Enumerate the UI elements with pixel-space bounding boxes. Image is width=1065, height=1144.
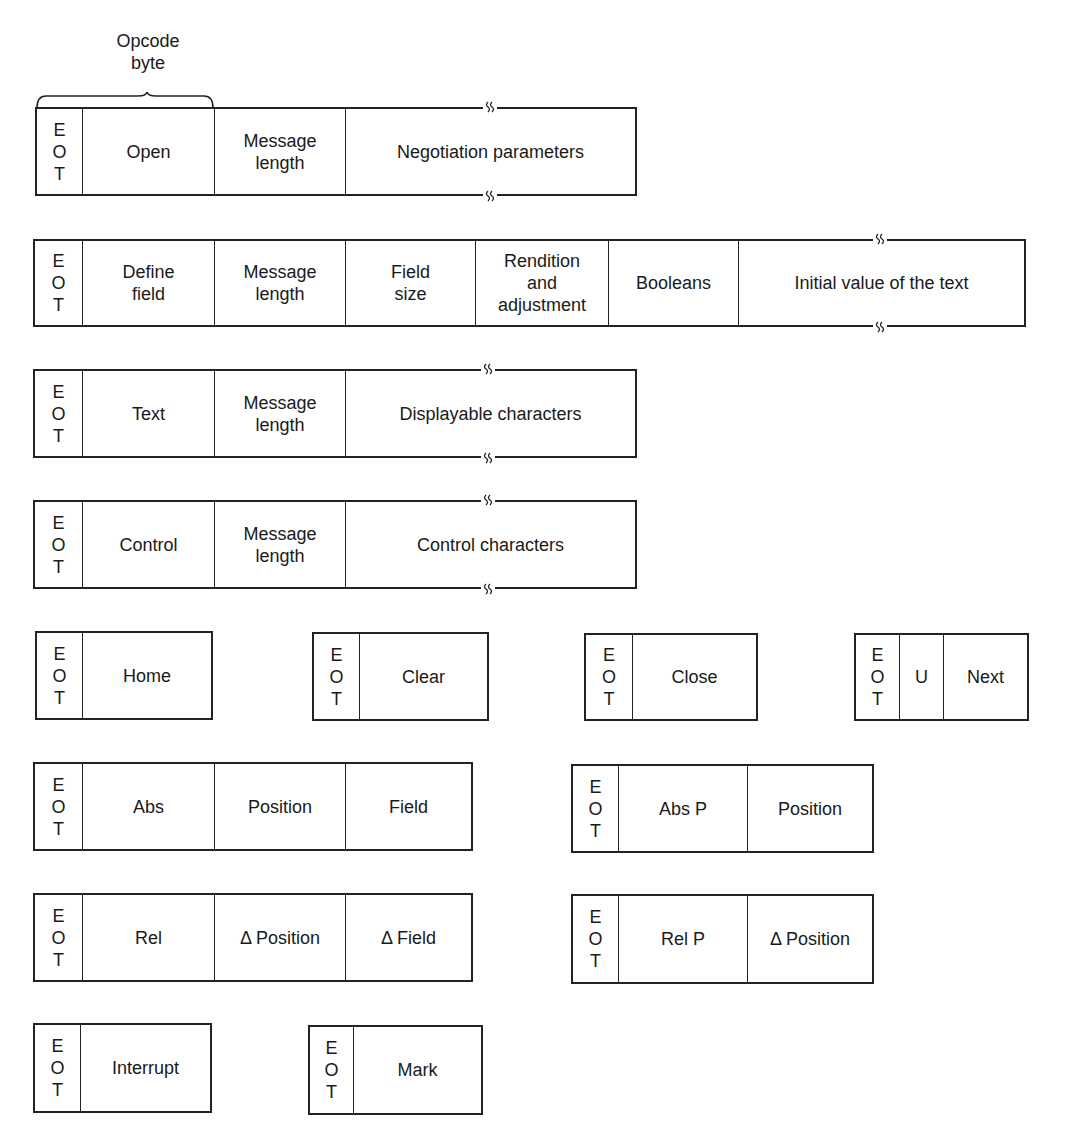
message-next: E O T U Next — [854, 633, 1029, 721]
eot-e: E — [871, 644, 883, 666]
booleans-cell: Booleans — [608, 241, 738, 325]
opcode-cell: Interrupt — [80, 1025, 210, 1111]
break-mark-icon — [873, 233, 887, 245]
eot-e: E — [52, 250, 64, 272]
eot-cell: E O T — [35, 895, 82, 980]
message-length-cell: Message length — [214, 502, 345, 587]
control-characters-cell: Control characters — [345, 502, 635, 587]
eot-e: E — [589, 776, 601, 798]
eot-o: O — [588, 798, 602, 820]
eot-t: T — [53, 425, 64, 447]
break-mark-icon — [483, 190, 497, 202]
eot-t: T — [590, 820, 601, 842]
eot-cell: E O T — [573, 766, 618, 851]
eot-e: E — [330, 644, 342, 666]
eot-cell: E O T — [35, 502, 82, 587]
displayable-characters-cell: Displayable characters — [345, 371, 635, 456]
position-cell: Position — [747, 766, 872, 851]
eot-t: T — [590, 950, 601, 972]
delta-position-cell: Δ Position — [747, 896, 872, 982]
negotiation-parameters-cell: Negotiation parameters — [345, 109, 635, 194]
eot-cell: E O T — [35, 371, 82, 456]
field-cell: Field — [345, 764, 471, 849]
message-length-cell: Message length — [214, 371, 345, 456]
delta-position-cell: Δ Position — [214, 895, 345, 980]
opcode-cell: Define field — [82, 241, 214, 325]
message-mark: E O T Mark — [308, 1025, 483, 1115]
opcode-cell: Rel — [82, 895, 214, 980]
eot-cell: E O T — [856, 635, 899, 719]
eot-t: T — [54, 687, 65, 709]
rendition-adjustment-cell: Rendition and adjustment — [475, 241, 608, 325]
eot-cell: E O T — [314, 634, 359, 719]
eot-o: O — [51, 927, 65, 949]
eot-t: T — [872, 688, 883, 710]
eot-t: T — [54, 163, 65, 185]
break-mark-icon — [481, 452, 495, 464]
opcode-label-line1: Opcode — [100, 30, 196, 52]
eot-e: E — [53, 643, 65, 665]
eot-cell: E O T — [37, 633, 82, 718]
eot-t: T — [53, 556, 64, 578]
opcode-cell: Clear — [359, 634, 487, 719]
eot-e: E — [52, 774, 64, 796]
break-mark-icon — [483, 101, 497, 113]
message-clear: E O T Clear — [312, 632, 489, 721]
opcode-label-line2: byte — [100, 52, 196, 74]
message-open: E O T Open Message length Negotiation pa… — [35, 107, 637, 196]
position-cell: Position — [214, 764, 345, 849]
message-text: E O T Text Message length Displayable ch… — [33, 369, 637, 458]
opcode-cell: Open — [82, 109, 214, 194]
opcode-cell: Rel P — [618, 896, 747, 982]
message-control: E O T Control Message length Control cha… — [33, 500, 637, 589]
opcode-cell: Abs — [82, 764, 214, 849]
eot-e: E — [603, 644, 615, 666]
u-flag-cell: U — [899, 635, 943, 719]
message-length-cell: Message length — [214, 109, 345, 194]
opcode-cell: Close — [632, 635, 756, 719]
opcode-cell: Home — [82, 633, 211, 718]
eot-o: O — [329, 666, 343, 688]
eot-cell: E O T — [35, 1025, 80, 1111]
opcode-cell: Abs P — [618, 766, 747, 851]
eot-o: O — [52, 665, 66, 687]
eot-e: E — [52, 905, 64, 927]
eot-e: E — [52, 512, 64, 534]
message-define-field: E O T Define field Message length Field … — [33, 239, 1026, 327]
opcode-byte-label: Opcode byte — [100, 30, 196, 74]
eot-t: T — [604, 688, 615, 710]
eot-o: O — [870, 666, 884, 688]
opcode-cell: Next — [943, 635, 1027, 719]
eot-t: T — [53, 818, 64, 840]
message-rel-p: E O T Rel P Δ Position — [571, 894, 874, 984]
eot-t: T — [52, 1079, 63, 1101]
eot-t: T — [326, 1081, 337, 1103]
opcode-cell: Text — [82, 371, 214, 456]
eot-cell: E O T — [35, 764, 82, 849]
message-length-cell: Message length — [214, 241, 345, 325]
message-home: E O T Home — [35, 631, 213, 720]
eot-t: T — [53, 294, 64, 316]
break-mark-icon — [873, 321, 887, 333]
eot-o: O — [51, 272, 65, 294]
message-rel: E O T Rel Δ Position Δ Field — [33, 893, 473, 982]
message-abs-p: E O T Abs P Position — [571, 764, 874, 853]
break-mark-icon — [481, 363, 495, 375]
eot-e: E — [51, 1035, 63, 1057]
eot-e: E — [589, 906, 601, 928]
eot-o: O — [52, 141, 66, 163]
message-interrupt: E O T Interrupt — [33, 1023, 212, 1113]
opcode-cell: Mark — [353, 1027, 481, 1113]
eot-o: O — [324, 1059, 338, 1081]
eot-t: T — [331, 688, 342, 710]
opcode-cell: Control — [82, 502, 214, 587]
eot-o: O — [588, 928, 602, 950]
break-mark-icon — [481, 583, 495, 595]
eot-cell: E O T — [35, 241, 82, 325]
eot-cell: E O T — [37, 109, 82, 194]
delta-field-cell: Δ Field — [345, 895, 471, 980]
eot-e: E — [53, 119, 65, 141]
eot-o: O — [51, 796, 65, 818]
message-close: E O T Close — [584, 633, 758, 721]
field-size-cell: Field size — [345, 241, 475, 325]
